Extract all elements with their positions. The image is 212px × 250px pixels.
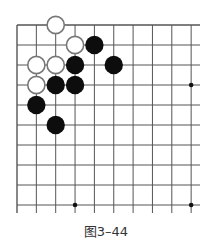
black-stone: [66, 76, 84, 94]
white-stone: [47, 16, 64, 33]
black-stone: [47, 116, 65, 134]
black-stone: [27, 96, 45, 114]
figure-caption: 图3–44: [0, 221, 212, 240]
white-stone: [28, 56, 45, 73]
go-board-diagram: [0, 0, 212, 220]
black-stone: [66, 56, 84, 74]
star-point: [189, 203, 194, 208]
black-stone: [47, 76, 65, 94]
white-stone: [47, 56, 64, 73]
black-stone: [85, 36, 103, 54]
black-stone: [105, 56, 123, 74]
white-stone: [66, 36, 83, 53]
white-stone: [28, 76, 45, 93]
star-point: [73, 203, 78, 208]
star-point: [189, 83, 194, 88]
